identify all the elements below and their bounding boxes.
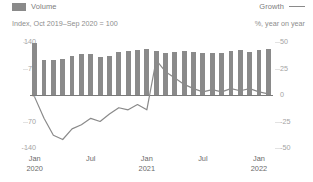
y-axis-right-tick-0: 50: [280, 37, 306, 46]
axis-tick-mark: [275, 69, 280, 70]
legend-label-growth: Growth: [259, 2, 284, 11]
x-axis-tick-3: Jul: [183, 154, 223, 164]
plot-area: [30, 42, 273, 148]
volume-swatch-icon: [12, 3, 26, 11]
axis-tick-mark: [23, 148, 28, 149]
x-axis-tick-1: Jul: [71, 154, 111, 164]
y-axis-right-tick-1: 25: [280, 64, 306, 73]
chart-legend: Volume Growth: [0, 2, 313, 16]
y-axis-right-tick-4: -50: [280, 143, 306, 152]
x-tick-year: 2022: [239, 164, 279, 174]
y-axis-right-tick-3: -25: [280, 117, 306, 126]
x-axis-tick-4: Jan2022: [239, 154, 279, 173]
x-tick-month: Jul: [198, 154, 207, 163]
chart-container: Volume Growth Index, Oct 2019–Sep 2020 =…: [0, 0, 313, 182]
axis-tick-mark: [275, 148, 280, 149]
y-axis-right-tick-2: 0: [280, 90, 306, 99]
chart-subtitle: Index, Oct 2019–Sep 2020 = 100: [12, 19, 118, 28]
x-axis-tick-0: Jan2020: [15, 154, 55, 173]
axis-tick-mark: [275, 42, 280, 43]
growth-swatch-icon: [289, 6, 305, 7]
x-tick-year: 2020: [15, 164, 55, 174]
x-tick-month: Jan: [253, 154, 265, 163]
growth-line-path: [35, 60, 269, 140]
x-tick-year: 2021: [127, 164, 167, 174]
x-tick-month: Jan: [29, 154, 41, 163]
legend-label-volume: Volume: [31, 2, 57, 11]
chart-subtitle-row: Index, Oct 2019–Sep 2020 = 100 %, year o…: [0, 19, 313, 31]
axis-tick-mark: [23, 42, 28, 43]
chart-right-unit-label: %, year on year: [255, 19, 305, 28]
legend-item-volume: Volume: [12, 2, 57, 11]
x-tick-month: Jul: [86, 154, 95, 163]
axis-tick-mark: [275, 122, 280, 123]
axis-tick-mark: [23, 69, 28, 70]
x-axis-tick-2: Jan2021: [127, 154, 167, 173]
legend-item-growth: Growth: [259, 2, 305, 11]
axis-tick-mark: [23, 122, 28, 123]
x-tick-month: Jan: [141, 154, 153, 163]
line-series-growth: [30, 42, 273, 148]
